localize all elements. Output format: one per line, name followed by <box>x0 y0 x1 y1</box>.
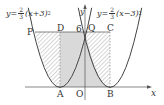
right-eq-fraction: 2 3 <box>109 7 115 20</box>
point-C-label: C <box>107 24 114 33</box>
right-equation: y= 2 3 (x−3)2 <box>97 7 142 20</box>
left-eq-prefix: y= <box>6 10 17 18</box>
left-eq-exp: 2 <box>48 11 51 16</box>
point-D-label: D <box>57 24 64 33</box>
tick-6-label: 6 <box>76 25 82 34</box>
point-B-label: B <box>107 90 114 99</box>
right-eq-exp: 2 <box>139 11 142 16</box>
right-eq-prefix: y= <box>97 10 108 18</box>
left-eq-fraction: 2 3 <box>18 7 24 20</box>
point-P-label: P <box>27 28 33 37</box>
x-axis-label: x <box>151 89 156 98</box>
right-eq-body: (x−3) <box>116 10 139 18</box>
origin-label: O <box>76 90 83 99</box>
left-equation: y= 2 3 (x+3)2 <box>6 7 51 20</box>
left-eq-den: 3 <box>19 14 23 20</box>
point-Q-label: Q <box>88 24 95 33</box>
hatched-region-left <box>35 32 60 87</box>
y-axis-label: y <box>80 8 85 16</box>
left-eq-body: (x+3) <box>25 10 48 18</box>
point-A-label: A <box>57 90 64 99</box>
right-eq-den: 3 <box>110 14 114 20</box>
